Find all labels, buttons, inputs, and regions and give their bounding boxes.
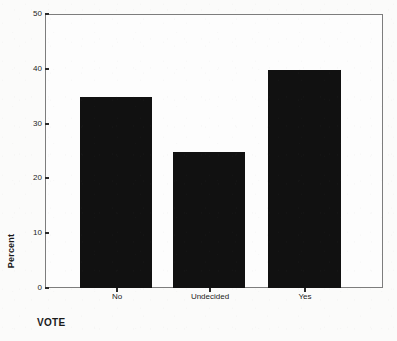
y-tick-label-40: 40	[33, 65, 42, 73]
y-tick-label-50: 50	[33, 10, 42, 18]
y-tick-label-10: 10	[33, 229, 42, 237]
y-axis-title: Percent	[6, 228, 16, 274]
y-tick-label-20: 20	[33, 174, 42, 182]
bar-yes	[268, 70, 341, 288]
y-tick-mark-30	[45, 123, 49, 125]
y-tick-mark-10	[45, 232, 49, 234]
y-tick-mark-40	[45, 68, 49, 70]
x-tick-label-no: No	[87, 292, 147, 302]
bar-undecided	[173, 152, 245, 289]
y-tick-label-0: 0	[38, 284, 42, 292]
x-axis-title: VOTE	[37, 317, 65, 328]
x-tick-label-undecided: Undecided	[180, 292, 240, 302]
y-tick-mark-50	[45, 13, 49, 15]
bar-chart: 50 40 30 20 10 0 Percent No Undecided Ye…	[0, 0, 397, 341]
y-tick-mark-20	[45, 177, 49, 179]
y-axis-tick-labels: 50 40 30 20 10 0	[22, 0, 42, 341]
plot-area	[46, 15, 383, 288]
x-tick-label-yes: Yes	[275, 292, 335, 302]
y-tick-label-30: 30	[33, 120, 42, 128]
bar-no	[80, 97, 152, 288]
y-tick-mark-0	[45, 287, 49, 289]
